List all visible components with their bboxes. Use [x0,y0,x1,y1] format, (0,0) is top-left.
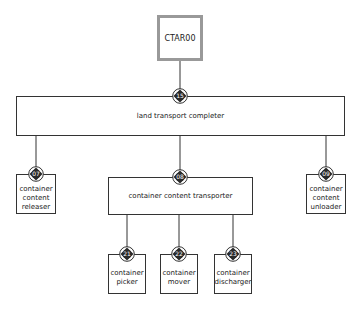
node-label: container content unloader [309,185,342,212]
node-label: container mover [162,269,195,287]
diagram-canvas: CTAR00 land transport completer containe… [0,0,360,310]
badge-icon-08: 08 [172,169,188,185]
badge-icon-21: 21 [119,246,135,262]
node-label: container picker [110,269,143,287]
badge-icon-15: 15 [172,88,188,104]
badge-icon-07: 07 [28,166,44,182]
root-node[interactable]: CTAR00 [157,15,203,61]
svg-text:09: 09 [322,170,330,177]
svg-text:07: 07 [32,170,40,177]
badge-icon-22: 22 [171,246,187,262]
node-label: container discharger [215,269,252,287]
svg-text:15: 15 [176,92,184,99]
svg-text:08: 08 [176,173,184,180]
node-label: container content transporter [129,192,233,201]
node-label: land transport completer [137,112,224,121]
svg-text:21: 21 [123,250,131,257]
badge-icon-23: 23 [225,246,241,262]
svg-text:23: 23 [229,250,237,257]
node-label: container content releaser [19,185,52,212]
badge-icon-09: 09 [318,166,334,182]
svg-text:22: 22 [175,250,183,257]
root-label: CTAR00 [164,34,195,43]
